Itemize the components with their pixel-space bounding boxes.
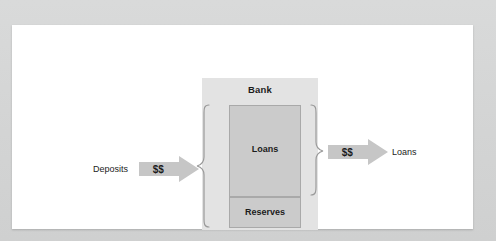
loans-outflow-arrow: $$ (328, 139, 388, 165)
bank-loans-label: Loans (230, 144, 300, 154)
bank-reserves-box: Reserves (229, 197, 301, 228)
bank-reserves-label: Reserves (230, 207, 300, 217)
deposits-source-label: Deposits (93, 164, 128, 174)
bank-panel: Bank Loans Reserves (202, 78, 318, 230)
deposits-arrow-label: $$ (139, 156, 199, 182)
bank-label: Bank (202, 84, 318, 95)
loans-target-label: Loans (392, 147, 417, 157)
diagram-card: Bank Loans Reserves $$ Deposits (12, 25, 473, 229)
deposits-inflow-arrow: $$ (139, 156, 199, 182)
loans-outflow-arrow-label: $$ (328, 139, 388, 165)
bank-loans-box: Loans (229, 105, 301, 197)
page-background: Bank Loans Reserves $$ Deposits (0, 0, 496, 241)
